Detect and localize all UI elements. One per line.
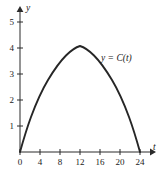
- x-tick-label-24: 24: [136, 158, 145, 167]
- x-tick-label-4: 4: [38, 158, 43, 167]
- y-tick-label-3: 3: [6, 70, 14, 79]
- y-tick-label-4: 4: [6, 44, 14, 53]
- plot-canvas: [0, 0, 160, 170]
- x-tick-label-12: 12: [76, 158, 85, 167]
- y-axis-arrow-icon: [17, 6, 24, 12]
- y-tick-label-5: 5: [6, 18, 14, 27]
- x-axis-title: t: [153, 143, 156, 153]
- x-tick-label-20: 20: [116, 158, 125, 167]
- x-tick-label-8: 8: [58, 158, 63, 167]
- y-axis-title: y: [26, 4, 30, 14]
- function-graph-figure: y t 0 4 8 12 16 20 24 1 2 3 4 5 y = C(t): [0, 0, 160, 170]
- curve-equation-label: y = C(t): [101, 54, 132, 64]
- x-tick-label-16: 16: [96, 158, 105, 167]
- y-tick-label-1: 1: [6, 122, 14, 131]
- x-tick-label-0: 0: [18, 158, 23, 167]
- y-tick-label-2: 2: [6, 96, 14, 105]
